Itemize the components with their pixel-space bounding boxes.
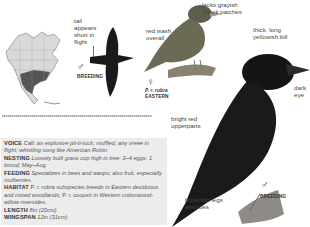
info-feeding: FEEDING Specializes in bees and wasps; a…: [4, 170, 164, 185]
male-symbol: ♂: [261, 180, 269, 190]
info-voice: VOICE Call: an explosive pit-ti-tuck; mu…: [4, 140, 164, 155]
female-subspecies: P. r. rubra: [145, 88, 168, 93]
male-annotation-upperparts: bright red upperparts: [171, 115, 211, 129]
male-annotation-eye: dark eye: [294, 84, 308, 98]
flying-bird: [88, 25, 138, 98]
female-symbol: ♀: [147, 77, 155, 87]
info-nesting: NESTING Loosely built grass cup high in …: [4, 155, 164, 170]
info-habitat: HABITAT P. r. rubra subspecies breeds in…: [4, 184, 164, 206]
female-annotation-cheek: lacks grayish cheek patches: [202, 1, 250, 15]
male-annotation-bill: thick, long yellowish bill: [253, 26, 303, 40]
male-annotation-legs: brownish legs and toes: [185, 196, 225, 210]
species-info-box: VOICE Call: an explosive pit-ti-tuck; mu…: [1, 138, 167, 225]
range-map-caribbean: [44, 102, 60, 104]
range-map-continent: [6, 32, 60, 104]
female-region: EASTERN: [145, 94, 169, 99]
male-symbol-flight: ♂: [77, 62, 85, 72]
info-length: LENGTH 8in (20cm): [4, 207, 164, 214]
male-plumage-tag: BREEDING: [260, 194, 286, 199]
info-wingspan: WINGSPAN 12in (31cm): [4, 214, 164, 221]
range-map: [4, 30, 64, 108]
female-annotation-wash: red wash overall: [146, 27, 174, 41]
divider: [2, 115, 152, 117]
flight-plumage-tag: BREEDING: [77, 74, 103, 79]
